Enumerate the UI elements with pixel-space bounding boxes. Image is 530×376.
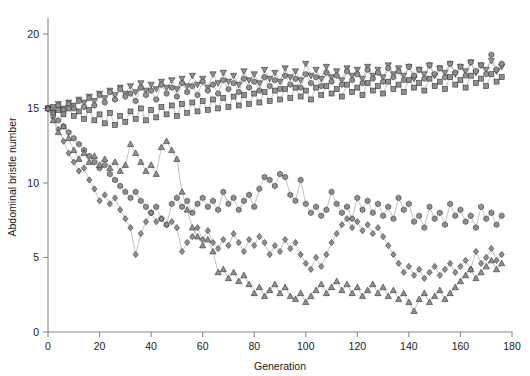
data-point [190,210,195,216]
data-point [185,89,190,95]
data-point [282,284,288,290]
data-point [499,75,504,80]
data-point [386,79,391,84]
data-point [210,82,215,88]
data-point [494,222,499,228]
data-point [319,213,324,219]
data-point [318,281,324,287]
x-tick-label: 40 [145,340,157,352]
data-point [257,88,262,94]
data-point [386,65,391,71]
data-point [252,91,257,96]
data-point [473,225,478,231]
data-point [169,78,175,84]
data-point [226,86,231,92]
data-point [391,216,396,222]
data-point [463,85,468,90]
data-point [287,75,293,81]
data-point [143,219,148,225]
data-point [102,156,108,162]
data-point [267,251,272,257]
x-tick-label: 60 [197,340,209,352]
y-tick-label: 15 [27,102,39,114]
data-point [422,76,427,82]
data-point [231,94,236,99]
x-axis-title: Generation [254,360,306,372]
data-point [148,162,154,168]
data-point [283,73,288,79]
data-point [323,64,329,70]
data-point [169,201,174,207]
data-point [334,201,339,207]
data-point [417,81,422,86]
data-point [154,219,159,225]
data-point [236,103,241,108]
data-point [184,207,190,213]
figure-container: 05101520020406080100120140160180Generati… [0,0,530,376]
data-point [298,94,303,99]
data-point [247,101,252,106]
data-point [169,103,174,108]
data-point [386,242,391,248]
data-point [355,85,360,90]
data-point [489,72,494,77]
data-point [437,65,442,71]
data-point [241,93,246,98]
data-point [76,141,81,147]
data-point [81,165,86,171]
data-point [174,156,180,162]
data-point [453,70,458,76]
data-point [107,89,112,95]
data-point [225,79,231,85]
data-point [76,109,81,114]
data-point [205,228,210,234]
data-point [128,91,133,97]
data-point [220,70,226,76]
data-point [102,100,107,106]
data-point [133,189,138,195]
data-point [66,150,71,156]
data-point [252,79,257,85]
data-point [473,68,478,74]
data-point [92,118,97,123]
data-point [221,77,226,83]
data-point [154,115,159,120]
data-point [278,97,283,102]
data-point [247,192,252,198]
data-point [365,198,370,204]
data-point [406,299,412,305]
data-point [241,272,247,278]
data-point [463,219,468,225]
data-point [174,113,179,118]
data-point [257,100,262,105]
data-point [154,97,159,103]
data-point [375,70,380,76]
data-point [319,93,324,98]
data-point [308,210,313,216]
data-point [412,219,417,225]
data-point [437,287,443,293]
data-point [71,159,76,165]
data-point [133,251,138,257]
data-point [293,76,298,82]
data-point [66,106,71,111]
data-point [468,73,473,78]
data-point [324,207,329,213]
data-point [381,213,386,219]
data-point [427,62,432,68]
data-point [499,61,504,67]
data-point [164,112,169,117]
data-point [360,80,365,86]
data-point [442,74,447,80]
data-point [432,84,437,89]
data-point [128,109,133,114]
data-point [226,201,231,207]
data-point [149,107,154,112]
data-point [360,93,365,98]
data-point [303,201,308,207]
data-point [123,216,128,222]
data-point [102,162,107,168]
data-point [138,85,143,91]
data-point [354,284,360,290]
data-point [82,104,87,110]
